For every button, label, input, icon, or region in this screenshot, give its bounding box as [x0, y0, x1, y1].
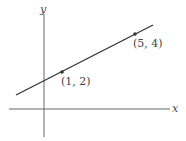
- x-axis-label: x: [172, 102, 179, 115]
- point-label-5-4: (5, 4): [133, 37, 163, 50]
- point-label-1-2: (1, 2): [61, 75, 91, 88]
- point-1-2: [60, 70, 64, 74]
- y-axis-label: y: [39, 3, 47, 16]
- point-5-4: [133, 32, 137, 36]
- line-diagram: x y (1, 2) (5, 4): [0, 0, 186, 141]
